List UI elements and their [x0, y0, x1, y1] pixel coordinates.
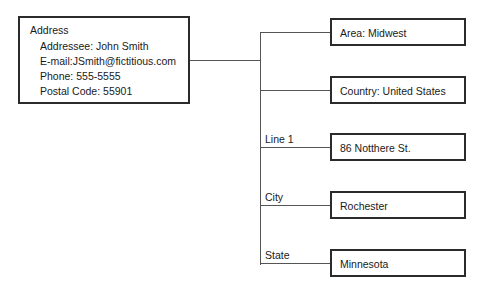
root-field-phone: Phone: 555-5555 — [40, 70, 121, 83]
trunk-connector — [260, 32, 261, 265]
leaf-value-line-1: 86 Notthere St. — [340, 142, 411, 155]
root-field-email: E-mail:JSmith@fictitious.com — [40, 55, 176, 68]
leaf-value-state: Minnesota — [340, 258, 388, 271]
root-entity-title: Address — [30, 24, 69, 37]
edge-label-state: State — [265, 249, 290, 261]
leaf-value-country: Country: United States — [340, 85, 446, 98]
address-entity-diagram: Address Addressee: John Smith E-mail:JSm… — [0, 0, 486, 290]
edge-label-city: City — [265, 191, 283, 203]
branch-connector-country — [260, 90, 330, 91]
branch-connector-city — [260, 205, 330, 206]
leaf-value-city: Rochester — [340, 200, 388, 213]
branch-connector-line-1 — [260, 147, 330, 148]
root-stem-connector — [190, 60, 260, 61]
root-field-addressee: Addressee: John Smith — [40, 40, 149, 53]
leaf-value-area: Area: Midwest — [340, 27, 407, 40]
root-field-postal-code: Postal Code: 55901 — [40, 85, 132, 98]
branch-connector-area — [260, 32, 330, 33]
branch-connector-state — [260, 263, 330, 264]
edge-label-line-1: Line 1 — [265, 133, 294, 145]
